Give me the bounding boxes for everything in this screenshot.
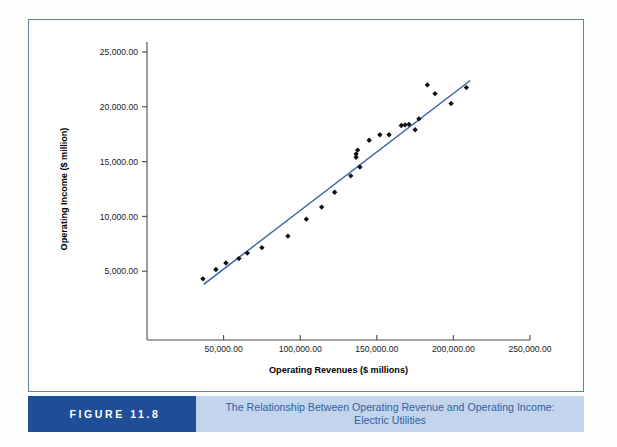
figure-caption-strip: FIGURE 11.8 The Relationship Between Ope… — [28, 396, 584, 432]
caption-line-1: The Relationship Between Operating Reven… — [225, 401, 554, 414]
data-point — [386, 132, 391, 137]
x-tick-label: 250,000.00 — [508, 344, 551, 354]
data-point — [332, 190, 337, 195]
y-tick-label: 15,000.00 — [100, 157, 138, 167]
data-point — [285, 233, 290, 238]
data-point — [200, 276, 205, 281]
y-tick-label: 5,000.00 — [105, 266, 139, 276]
figure-number-label: FIGURE 11.8 — [28, 396, 196, 432]
data-point — [412, 127, 417, 132]
data-point — [432, 91, 437, 96]
data-point — [245, 250, 250, 255]
y-axis-title: Operating Income ($ million) — [59, 128, 69, 251]
figure-page: 5,000.0010,000.0015,000.0020,000.0025,00… — [0, 0, 617, 447]
data-point — [377, 132, 382, 137]
trend-line — [204, 80, 471, 284]
caption-line-2: Electric Utilities — [354, 414, 426, 427]
figure-frame: 5,000.0010,000.0015,000.0020,000.0025,00… — [28, 19, 584, 392]
data-point — [357, 164, 362, 169]
data-point — [448, 101, 453, 106]
y-tick-label: 20,000.00 — [100, 102, 138, 112]
data-point — [319, 204, 324, 209]
data-point — [366, 138, 371, 143]
data-point — [259, 245, 264, 250]
figure-caption: The Relationship Between Operating Reven… — [196, 396, 584, 432]
x-axis-title: Operating Revenues ($ millions) — [269, 365, 408, 375]
y-tick-label: 10,000.00 — [100, 212, 138, 222]
data-point — [304, 216, 309, 221]
data-point — [223, 260, 228, 265]
data-point — [213, 267, 218, 272]
plot-area: 5,000.0010,000.0015,000.0020,000.0025,00… — [29, 20, 585, 393]
data-point — [425, 82, 430, 87]
scatter-chart: 5,000.0010,000.0015,000.0020,000.0025,00… — [29, 20, 585, 393]
x-tick-label: 150,000.00 — [355, 344, 398, 354]
x-tick-label: 200,000.00 — [432, 344, 475, 354]
x-tick-label: 100,000.00 — [279, 344, 322, 354]
y-tick-label: 25,000.00 — [100, 47, 138, 57]
x-tick-label: 50,000.00 — [204, 344, 242, 354]
